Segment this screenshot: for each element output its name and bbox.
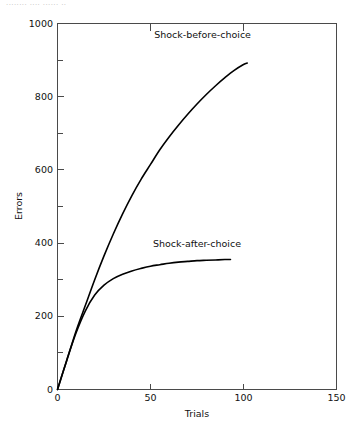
y-axis-tick-labels: 0 200 400 600 800 1000: [29, 18, 53, 395]
x-axis-major-ticks: [58, 384, 337, 390]
errors-vs-trials-line-chart: 0 200 400 600 800 1000 0 50 100 150 Tria…: [0, 0, 358, 435]
y-tick-label-0: 0: [47, 384, 53, 395]
y-axis-title: Errors: [13, 192, 24, 220]
chart-figure: 0 200 400 600 800 1000 0 50 100 150 Tria…: [0, 0, 358, 435]
x-axis-title: Trials: [184, 408, 209, 419]
y-tick-label-800: 800: [35, 91, 53, 102]
x-axis-tick-labels: 0 50 100 150: [54, 392, 345, 403]
y-tick-label-400: 400: [35, 237, 53, 248]
x-tick-label-0: 0: [54, 392, 60, 403]
curve-shock-before-choice: [58, 63, 248, 389]
y-tick-label-1000: 1000: [29, 18, 53, 29]
curve-shock-after-choice: [58, 260, 231, 390]
series-label-shock-after-choice: Shock-after-choice: [153, 238, 241, 249]
plot-frame: [58, 24, 337, 390]
y-tick-label-200: 200: [35, 310, 53, 321]
x-tick-label-50: 50: [144, 392, 156, 403]
series-label-shock-before-choice: Shock-before-choice: [154, 29, 251, 40]
x-tick-label-100: 100: [234, 392, 252, 403]
x-tick-label-150: 150: [327, 392, 345, 403]
y-tick-label-600: 600: [35, 164, 53, 175]
y-axis-minor-ticks: [58, 60, 63, 353]
